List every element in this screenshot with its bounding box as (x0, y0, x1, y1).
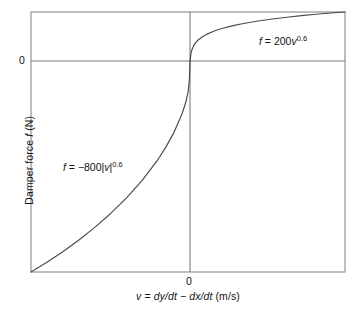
y-axis-zero-tick-label: 0 (19, 55, 25, 66)
positive-branch-equation-label: f = 200v0.6 (259, 36, 307, 47)
x-axis-zero-tick-label: 0 (186, 276, 192, 287)
x-axis-title-equals: = (141, 290, 153, 302)
negative-branch-equation-label: f = −800|v|0.6 (63, 162, 123, 173)
x-axis-title: v = dy/dt − dx/dt (m/s) (31, 291, 345, 302)
negative-equation-exponent: 0.6 (112, 160, 123, 169)
y-axis-title: Damper force f (N) (24, 80, 35, 240)
x-axis-title-minus: − (177, 290, 189, 302)
positive-equation-exponent: 0.6 (297, 34, 308, 43)
negative-equation-body: = −800 (66, 161, 102, 173)
y-axis-title-units: (N) (23, 116, 35, 134)
x-axis-title-term-one: dy/dt (154, 290, 177, 302)
x-axis-title-term-two: dx/dt (189, 290, 212, 302)
plot-canvas (0, 0, 360, 311)
y-axis-title-prefix: Damper force (23, 137, 35, 205)
x-axis-title-units: (m/s) (213, 290, 240, 302)
damper-force-chart: 0 0 Damper force f (N) v = dy/dt − dx/dt… (0, 0, 360, 311)
plot-frame (31, 12, 345, 272)
positive-equation-body: = 200 (262, 35, 292, 47)
